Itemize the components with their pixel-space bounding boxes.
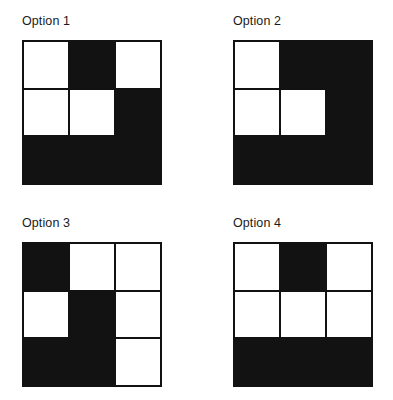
grid-cell [327, 137, 371, 183]
grid-cell [327, 42, 371, 88]
grid-cell [281, 42, 325, 88]
grid-cell [70, 292, 114, 338]
option-4-label: Option 4 [233, 216, 281, 230]
option-2-label: Option 2 [233, 14, 281, 28]
grid-cell [281, 137, 325, 183]
grid-cell [70, 244, 114, 290]
grid-cell [116, 339, 160, 385]
option-1-grid[interactable] [22, 40, 162, 185]
grid-cell [327, 90, 371, 136]
grid-cell [281, 90, 325, 136]
multiple-choice-pattern-canvas: Option 1 Option 2 Option 3 Option 4 [0, 0, 393, 400]
option-1-label: Option 1 [22, 14, 70, 28]
option-4-grid[interactable] [233, 242, 373, 387]
grid-cell [235, 339, 279, 385]
grid-cell [24, 339, 68, 385]
grid-cell [235, 90, 279, 136]
grid-cell [24, 90, 68, 136]
grid-cell [116, 292, 160, 338]
option-2-grid[interactable] [233, 40, 373, 185]
grid-cell [24, 292, 68, 338]
grid-cell [70, 137, 114, 183]
grid-cell [70, 90, 114, 136]
grid-cell [235, 292, 279, 338]
grid-cell [70, 42, 114, 88]
grid-cell [116, 137, 160, 183]
grid-cell [235, 244, 279, 290]
grid-cell [327, 339, 371, 385]
grid-cell [235, 42, 279, 88]
grid-cell [116, 244, 160, 290]
grid-cell [235, 137, 279, 183]
grid-cell [24, 137, 68, 183]
grid-cell [281, 244, 325, 290]
grid-cell [327, 244, 371, 290]
option-3-grid[interactable] [22, 242, 162, 387]
grid-cell [24, 42, 68, 88]
grid-cell [70, 339, 114, 385]
grid-cell [116, 90, 160, 136]
grid-cell [327, 292, 371, 338]
grid-cell [281, 339, 325, 385]
option-3-label: Option 3 [22, 216, 70, 230]
grid-cell [116, 42, 160, 88]
grid-cell [24, 244, 68, 290]
grid-cell [281, 292, 325, 338]
